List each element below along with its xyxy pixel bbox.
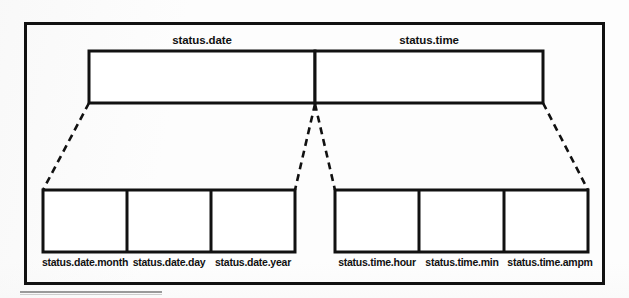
label-status-date-month: status.date.month	[33, 256, 137, 268]
label-status-date: status.date	[89, 34, 315, 46]
label-status-date-year: status.date.year	[208, 256, 298, 268]
connector-time-left	[315, 104, 335, 190]
label-status-time-min: status.time.min	[418, 256, 506, 268]
label-status-time: status.time	[315, 34, 543, 46]
node-box-status-time	[315, 51, 543, 103]
node-box-time-fields-group	[335, 190, 588, 252]
connector-date-left	[43, 103, 89, 190]
scan-artifact-rule-secondary	[20, 294, 162, 295]
diagram-page: status.date status.time status.date.mont…	[0, 0, 629, 298]
label-status-time-ampm: status.time.ampm	[502, 256, 598, 268]
connector-date-right	[295, 104, 315, 190]
label-status-date-day: status.date.day	[126, 256, 212, 268]
label-status-time-hour: status.time.hour	[329, 256, 425, 268]
node-box-date-fields-group	[43, 190, 295, 252]
node-box-status-date	[89, 51, 315, 103]
scan-artifact-rule	[20, 291, 162, 293]
connector-time-right	[543, 103, 588, 190]
